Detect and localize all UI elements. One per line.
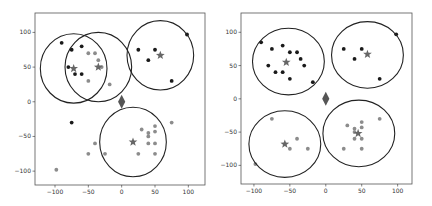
data-point (93, 141, 97, 145)
data-point (60, 41, 64, 45)
data-point (360, 147, 364, 151)
data-point (266, 64, 270, 68)
data-point (86, 51, 90, 55)
data-point (93, 51, 97, 55)
data-point (80, 72, 84, 76)
y-tick-label: 100 (226, 28, 238, 35)
data-point (108, 83, 112, 87)
data-point (96, 58, 100, 62)
x-tick-label: 50 (151, 188, 159, 195)
scatter-panel-right: −100−50050100100500−50−100 (221, 13, 412, 194)
data-point (170, 79, 174, 83)
x-tick-label: 100 (183, 188, 195, 195)
x-tick-label: −100 (47, 188, 64, 195)
data-point (360, 120, 364, 124)
data-point (288, 50, 292, 54)
figure: −100−50050100100500−50−100 −100−50050100… (0, 0, 432, 206)
data-point (140, 128, 144, 132)
y-tick-label: 100 (20, 28, 32, 35)
data-point (170, 121, 174, 125)
data-point (146, 141, 150, 145)
data-point (288, 147, 292, 151)
data-point (146, 131, 150, 135)
data-point (281, 70, 285, 74)
data-point (281, 44, 285, 48)
data-point (378, 77, 382, 81)
data-point (54, 168, 58, 172)
data-point (103, 152, 107, 156)
data-point (360, 47, 364, 51)
data-point (80, 44, 84, 48)
data-point (270, 117, 274, 121)
data-point (353, 57, 357, 61)
data-point (302, 64, 306, 68)
x-tick-label: 100 (392, 187, 404, 194)
data-point (70, 121, 74, 125)
y-tick-label: −50 (224, 128, 237, 135)
data-point (153, 141, 157, 145)
x-tick-label: −50 (284, 187, 297, 194)
data-point (311, 80, 315, 84)
data-point (153, 130, 157, 134)
data-point (153, 124, 157, 128)
x-tick-label: −50 (82, 188, 95, 195)
scatter-panel-left: −100−50050100100500−50−100 (15, 13, 205, 195)
y-tick-label: 50 (229, 62, 237, 69)
y-tick-label: −100 (15, 167, 32, 174)
y-tick-label: −50 (18, 132, 31, 139)
data-point (353, 127, 357, 131)
x-tick-label: 0 (120, 188, 124, 195)
data-point (288, 77, 292, 81)
y-tick-label: 50 (23, 63, 31, 70)
y-tick-label: −100 (221, 161, 238, 168)
data-point (153, 152, 157, 156)
data-point (306, 147, 310, 151)
y-tick-label: 0 (233, 95, 237, 102)
x-tick-label: 50 (358, 187, 366, 194)
data-point (86, 79, 90, 83)
x-tick-label: −100 (246, 187, 263, 194)
data-point (274, 70, 278, 74)
y-tick-label: 0 (27, 98, 31, 105)
data-point (342, 47, 346, 51)
data-point (378, 117, 382, 121)
data-point (153, 48, 157, 52)
data-point (342, 147, 346, 151)
data-point (295, 50, 299, 54)
data-point (295, 137, 299, 141)
data-point (299, 57, 303, 61)
data-point (136, 48, 140, 52)
data-point (146, 58, 150, 62)
data-point (136, 152, 140, 156)
data-point (270, 47, 274, 51)
data-point (360, 126, 364, 130)
data-point (146, 135, 150, 139)
data-point (86, 152, 90, 156)
data-point (353, 137, 357, 141)
data-point (360, 137, 364, 141)
data-point (345, 124, 349, 128)
data-point (73, 72, 77, 76)
x-tick-label: 0 (324, 187, 328, 194)
